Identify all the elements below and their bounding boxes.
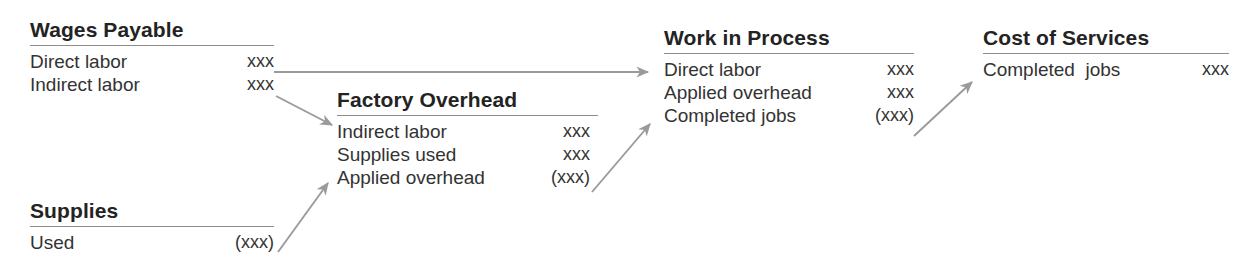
row-value: (xxx) (206, 231, 274, 254)
row-label: Direct labor (664, 58, 761, 81)
table-row: Used (xxx) (30, 231, 274, 254)
account-title-factory-overhead: Factory Overhead (337, 88, 598, 112)
row-value: (xxx) (854, 104, 914, 127)
table-row: Supplies used xxx (337, 143, 598, 166)
row-value: xxx (854, 81, 914, 104)
row-value: xxx (226, 73, 274, 96)
table-row: Direct labor xxx (30, 50, 274, 73)
row-value: (xxx) (530, 166, 590, 189)
row-label: Direct labor (30, 50, 127, 73)
account-rule-work-in-process (664, 53, 914, 54)
account-factory-overhead: Factory Overhead Indirect labor xxx Supp… (337, 88, 598, 189)
row-value: xxx (530, 143, 590, 166)
table-row: Applied overhead (xxx) (337, 166, 598, 189)
account-rows-wages-payable: Direct labor xxx Indirect labor xxx (30, 50, 274, 96)
account-rows-factory-overhead: Indirect labor xxx Supplies used xxx App… (337, 120, 598, 189)
row-label: Completed jobs (983, 58, 1120, 81)
account-supplies: Supplies Used (xxx) (30, 199, 274, 254)
flow-completed-jobs-to-cost-of-services (914, 82, 972, 136)
row-value: xxx (530, 120, 590, 143)
row-value: xxx (226, 50, 274, 73)
row-label: Used (30, 231, 74, 254)
flow-supplies-used-to-overhead (278, 183, 328, 252)
account-rows-cost-of-services: Completed jobs xxx (983, 58, 1229, 81)
row-label: Applied overhead (337, 166, 485, 189)
table-row: Completed jobs xxx (983, 58, 1229, 81)
table-row: Direct labor xxx (664, 58, 914, 81)
table-row: Indirect labor xxx (30, 73, 274, 96)
row-value: xxx (1181, 58, 1229, 81)
flow-applied-overhead-to-wip (592, 124, 650, 192)
row-value: xxx (854, 58, 914, 81)
account-title-supplies: Supplies (30, 199, 274, 223)
table-row: Completed jobs (xxx) (664, 104, 914, 127)
account-cost-of-services: Cost of Services Completed jobs xxx (983, 26, 1229, 81)
table-row: Applied overhead xxx (664, 81, 914, 104)
row-label: Indirect labor (337, 120, 447, 143)
account-work-in-process: Work in Process Direct labor xxx Applied… (664, 26, 914, 127)
account-rule-factory-overhead (337, 115, 598, 116)
account-rule-wages-payable (30, 45, 274, 46)
row-label: Supplies used (337, 143, 456, 166)
account-title-wages-payable: Wages Payable (30, 18, 274, 42)
account-title-work-in-process: Work in Process (664, 26, 914, 50)
row-label: Completed jobs (664, 104, 796, 127)
cost-flow-diagram: Wages Payable Direct labor xxx Indirect … (0, 0, 1253, 279)
account-wages-payable: Wages Payable Direct labor xxx Indirect … (30, 18, 274, 96)
account-rows-supplies: Used (xxx) (30, 231, 274, 254)
row-label: Indirect labor (30, 73, 140, 96)
row-label: Applied overhead (664, 81, 812, 104)
table-row: Indirect labor xxx (337, 120, 598, 143)
account-rule-supplies (30, 226, 274, 227)
account-rows-work-in-process: Direct labor xxx Applied overhead xxx Co… (664, 58, 914, 127)
flow-indirect-labor-to-overhead (276, 96, 332, 125)
account-rule-cost-of-services (983, 53, 1229, 54)
account-title-cost-of-services: Cost of Services (983, 26, 1229, 50)
